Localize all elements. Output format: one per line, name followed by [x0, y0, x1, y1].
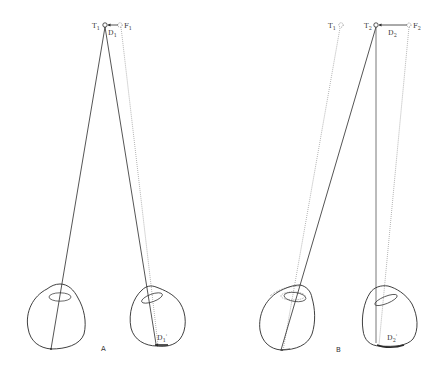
label-f2: F2	[413, 22, 421, 31]
left-eye-b	[260, 285, 315, 351]
target-t1-marker	[103, 23, 107, 27]
sightline-t1-right-eye	[105, 27, 156, 344]
arrowhead-icon	[379, 24, 382, 27]
fixation-f2-marker	[407, 23, 411, 27]
panel-a: T1 F1 D1 D1' A	[27, 22, 185, 353]
lens-icon	[374, 292, 399, 308]
lens-icon	[283, 291, 306, 303]
fixation-f1-marker	[118, 23, 122, 27]
lens-icon	[140, 291, 163, 306]
sightline-t1-left-eye	[283, 28, 340, 351]
label-t2: T2	[364, 22, 372, 31]
label-t1: T1	[92, 22, 100, 31]
panel-b: T1 T2 F2 D2 D2' B	[260, 22, 421, 354]
sightline-t1-left-eye	[51, 27, 105, 349]
label-d1-prime: D1'	[157, 333, 167, 343]
arrowhead-icon	[108, 24, 111, 27]
sightline-f1-right-eye	[121, 27, 158, 345]
target-t1-marker	[339, 23, 343, 27]
label-f1: F1	[124, 22, 132, 31]
target-t2-marker	[374, 23, 378, 27]
panel-label-b: B	[336, 346, 341, 354]
label-d2: D2	[388, 29, 397, 38]
label-t1: T1	[328, 22, 336, 31]
label-d2-prime: D2'	[387, 333, 397, 343]
panel-label-a: A	[101, 345, 106, 353]
label-d1: D1	[108, 29, 117, 38]
fovea-dot	[50, 348, 52, 350]
eye-vergence-diagram: T1 F1 D1 D1' A T1 T	[0, 0, 441, 366]
